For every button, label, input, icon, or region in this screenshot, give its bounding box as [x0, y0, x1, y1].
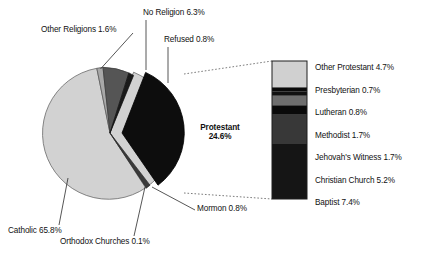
leader-other-religions	[101, 33, 134, 69]
label-mormon: Mormon 0.8%	[197, 205, 247, 214]
leader-mormon	[152, 187, 195, 210]
label-no-religion: No Religion 6.3%	[143, 9, 205, 18]
label-other-religions: Other Religions 1.6%	[41, 26, 116, 35]
label-catholic: Catholic 65.8%	[8, 227, 62, 236]
leader-catholic	[59, 178, 68, 225]
leader-orthodox	[134, 187, 145, 236]
label-protestant-value: 24.6%	[188, 133, 252, 142]
legend-item-christian-church[interactable]: Christian Church 5.2%	[315, 176, 395, 185]
legend-item-other-protestant[interactable]: Other Protestant 4.7%	[315, 63, 394, 72]
bar-segment-presbyterian[interactable]	[272, 87, 307, 91]
bar-segment-lutheran[interactable]	[272, 91, 307, 96]
bar-segment-other-protestant[interactable]	[272, 61, 307, 87]
pie-slices	[43, 67, 185, 199]
legend-item-methodist[interactable]: Methodist 1.7%	[315, 131, 370, 140]
connector-bottom	[184, 193, 272, 199]
connector-top	[184, 61, 272, 74]
bar-segment-methodist[interactable]	[272, 96, 307, 106]
pie-chart-figure: Other Religions 1.6% No Religion 6.3% Re…	[0, 0, 425, 255]
bar-segment-christian-church[interactable]	[272, 115, 307, 144]
label-protestant: Protestant 24.6%	[188, 124, 252, 141]
legend-item-jehovahs-witness[interactable]: Jehovah's Witness 1.7%	[315, 153, 402, 162]
legend-item-baptist[interactable]: Baptist 7.4%	[315, 198, 360, 207]
label-refused: Refused 0.8%	[164, 36, 214, 45]
bar-segment-jehovahs-witness[interactable]	[272, 105, 307, 115]
legend-item-lutheran[interactable]: Lutheran 0.8%	[315, 108, 367, 117]
bar-segment-baptist[interactable]	[272, 144, 307, 199]
protestant-stacked-bar	[272, 61, 307, 199]
label-orthodox-churches: Orthodox Churches 0.1%	[60, 238, 150, 247]
legend-item-presbyterian[interactable]: Presbyterian 0.7%	[315, 86, 380, 95]
